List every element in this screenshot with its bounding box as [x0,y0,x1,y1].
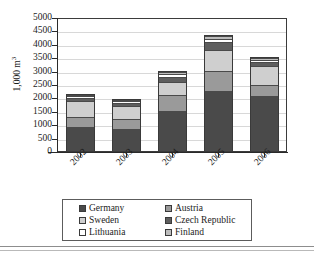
y-axis-tick-labels: 0500100015002000250030003500400045005000 [14,0,52,253]
legend-item-austria[interactable]: Austria [165,202,251,214]
legend-item-czech-republic[interactable]: Czech Republic [165,214,251,226]
bar-segment-sweden [251,66,278,85]
y-axis-tick-label: 5000 [18,13,52,22]
bar-segment-austria [205,71,232,91]
chart-figure: 0500100015002000250030003500400045005000… [0,0,314,253]
bar-segment-sweden [159,82,186,95]
legend-label: Austria [175,203,203,214]
footer-rule-bottom [0,250,314,251]
bar-segment-austria [67,117,94,127]
legend-label: Germany [89,203,124,214]
y-axis-tick-label: 2000 [18,93,52,102]
bar-segment-germany [159,111,186,151]
bar-segment-sweden [205,50,232,71]
y-axis-title-base: 1,000 m [12,60,22,91]
legend-item-lithuania[interactable]: Lithuania [79,226,165,238]
bar-segment-austria [113,119,140,129]
legend-swatch-icon [165,217,172,224]
y-axis-tick-label: 0 [18,147,52,156]
bar-series-layer [57,18,287,152]
y-axis-tick-label: 500 [18,134,52,143]
bar-segment-austria [159,95,186,111]
y-axis-tick-label: 1000 [18,120,52,129]
legend-swatch-icon [79,205,86,212]
legend-item-germany[interactable]: Germany [79,202,165,214]
legend-swatch-icon [79,217,86,224]
bar-column-2003 [112,99,141,152]
bar-segment-czech-republic [205,42,232,50]
bar-column-2006 [250,57,279,152]
bar-column-2004 [158,71,187,152]
bar-segment-sweden [113,106,140,118]
bar-column-2002 [66,94,95,152]
y-axis-tick-label: 1500 [18,107,52,116]
bar-segment-austria [251,85,278,95]
y-axis-tick-label: 4000 [18,40,52,49]
footer-rule-top [0,246,314,247]
legend-item-sweden[interactable]: Sweden [79,214,165,226]
y-axis-title: 1,000 m3 [10,44,22,104]
bar-column-2005 [204,35,233,152]
legend-swatch-icon [165,205,172,212]
y-axis-tick-label: 3000 [18,67,52,76]
bar-segment-germany [205,91,232,151]
legend-swatch-icon [165,229,172,236]
legend-label: Lithuania [89,227,125,238]
legend: GermanyAustriaSwedenCzech RepublicLithua… [62,199,252,241]
legend-label: Czech Republic [175,215,235,226]
bar-segment-sweden [67,101,94,117]
y-axis-tick [52,152,57,153]
y-axis-tick-label: 4500 [18,26,52,35]
legend-label: Finland [175,227,204,238]
y-axis-title-exponent: 3 [10,57,18,61]
y-axis-tick-label: 3500 [18,53,52,62]
bar-segment-germany [251,96,278,151]
y-axis-tick-label: 2500 [18,80,52,89]
legend-item-finland[interactable]: Finland [165,226,251,238]
legend-label: Sweden [89,215,119,226]
legend-swatch-icon [79,229,86,236]
